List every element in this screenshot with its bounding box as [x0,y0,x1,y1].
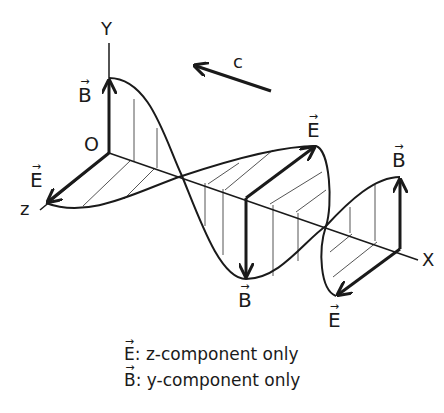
vector-label-e-origin: → E [30,170,43,190]
vector-label-b-mid: → B [238,290,252,310]
vector-label-e-mid: → E [307,120,320,140]
vector-arrow-icon: → [30,161,43,172]
vector-arrow-icon: → [328,301,341,312]
e-vector-end [339,249,400,294]
vector-arrow-icon: → [124,335,135,348]
vector-label-b-end: → B [392,150,406,170]
origin-label: O [84,135,99,154]
y-axis-label: Y [101,20,112,38]
vector-arrow-icon: → [307,111,320,122]
e-vector-origin [49,153,109,201]
vector-arrow-icon: → [238,281,252,292]
vector-arrow-icon: → [78,76,92,87]
caption-b-text: : y-component only [136,370,301,390]
caption-line-e: → E : z-component only [124,344,298,364]
propagation-label: c [233,53,243,71]
z-axis-label: z [20,200,29,218]
b-wave-hatching [134,99,375,276]
vector-arrow-icon: → [124,361,136,374]
x-axis-label: X [422,251,434,269]
em-wave-diagram: Y O z X c → B → E → E → B → B → E → E : … [0,0,444,413]
x-axis [109,153,418,260]
vector-label-b-origin: → B [78,85,92,105]
vector-arrow-icon: → [392,141,406,152]
caption-b-symbol: → B [124,370,136,390]
b-wave-curve [109,78,400,279]
caption-line-b: → B : y-component only [124,370,300,390]
caption-e-text: : z-component only [135,344,299,364]
e-wave-hatching [83,150,377,277]
vector-label-e-end: → E [328,310,341,330]
